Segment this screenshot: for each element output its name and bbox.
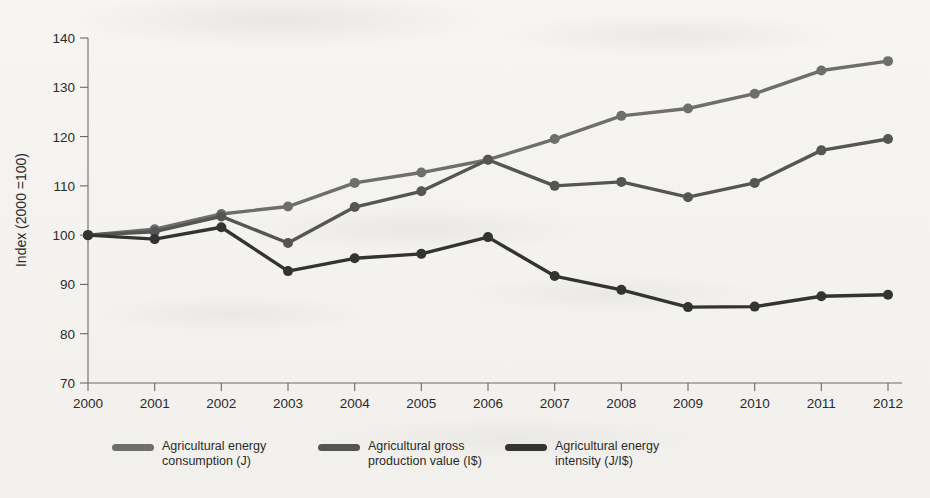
x-tick-label: 2004 xyxy=(340,396,371,411)
data-point xyxy=(816,291,826,301)
legend-item-3[interactable]: Agricultural energyintensity (J/I$) xyxy=(505,439,660,468)
chart-legend: Agricultural energyconsumption (J)Agricu… xyxy=(112,439,660,468)
y-axis-ticks xyxy=(80,38,88,383)
series-1 xyxy=(83,56,893,240)
legend-label-line1: Agricultural energy xyxy=(555,439,660,453)
data-point xyxy=(616,177,626,187)
data-series-group xyxy=(83,56,893,312)
data-point xyxy=(150,234,160,244)
data-point xyxy=(83,230,93,240)
data-point xyxy=(683,302,693,312)
x-tick-label: 2011 xyxy=(807,396,836,411)
data-point xyxy=(483,232,493,242)
line-chart: 708090100110120130140 200020012002200320… xyxy=(0,0,930,498)
data-point xyxy=(616,111,626,121)
y-axis-tick-labels: 708090100110120130140 xyxy=(52,31,75,391)
data-point xyxy=(883,134,893,144)
data-point xyxy=(750,302,760,312)
x-tick-label: 2008 xyxy=(606,396,636,411)
legend-label-line1: Agricultural energy xyxy=(162,439,267,453)
data-point xyxy=(550,134,560,144)
y-tick-label: 90 xyxy=(60,277,75,292)
data-point xyxy=(683,192,693,202)
y-tick-label: 130 xyxy=(52,80,75,95)
data-point xyxy=(350,178,360,188)
x-axis-ticks xyxy=(88,383,888,391)
data-point xyxy=(216,222,226,232)
x-tick-label: 2001 xyxy=(140,396,170,411)
x-tick-label: 2012 xyxy=(873,396,903,411)
data-point xyxy=(416,186,426,196)
series-line xyxy=(88,139,888,243)
x-tick-label: 2010 xyxy=(740,396,770,411)
legend-swatch xyxy=(112,444,154,451)
data-point xyxy=(750,178,760,188)
legend-swatch xyxy=(505,444,547,451)
data-point xyxy=(483,155,493,165)
data-point xyxy=(616,285,626,295)
legend-item-1[interactable]: Agricultural energyconsumption (J) xyxy=(112,439,267,468)
legend-label-line2: consumption (J) xyxy=(162,454,251,468)
x-axis-tick-labels: 2000200120022003200420052006200720082009… xyxy=(73,396,903,411)
x-tick-label: 2006 xyxy=(473,396,503,411)
data-point xyxy=(816,145,826,155)
y-tick-label: 140 xyxy=(52,31,75,46)
data-point xyxy=(283,202,293,212)
x-tick-label: 2007 xyxy=(540,396,570,411)
legend-label-line1: Agricultural gross xyxy=(368,439,465,453)
chart-svg: 708090100110120130140 200020012002200320… xyxy=(0,0,930,498)
legend-label-line2: intensity (J/I$) xyxy=(555,454,633,468)
data-point xyxy=(883,290,893,300)
data-point xyxy=(416,168,426,178)
data-point xyxy=(283,238,293,248)
x-tick-label: 2003 xyxy=(273,396,303,411)
x-tick-label: 2002 xyxy=(206,396,236,411)
y-tick-label: 70 xyxy=(60,376,75,391)
x-tick-label: 2000 xyxy=(73,396,103,411)
data-point xyxy=(683,103,693,113)
legend-item-2[interactable]: Agricultural grossproduction value (I$) xyxy=(318,439,482,468)
data-point xyxy=(283,266,293,276)
legend-swatch xyxy=(318,444,360,451)
data-point xyxy=(350,253,360,263)
data-point xyxy=(883,56,893,66)
x-tick-label: 2009 xyxy=(673,396,703,411)
data-point xyxy=(750,89,760,99)
data-point xyxy=(550,181,560,191)
data-point xyxy=(216,211,226,221)
series-line xyxy=(88,61,888,235)
legend-label-line2: production value (I$) xyxy=(368,454,482,468)
data-point xyxy=(550,271,560,281)
y-tick-label: 80 xyxy=(60,327,75,342)
data-point xyxy=(416,249,426,259)
y-tick-label: 110 xyxy=(53,179,75,194)
y-axis-title: Index (2000 =100) xyxy=(13,153,29,267)
data-point xyxy=(350,202,360,212)
x-tick-label: 2005 xyxy=(406,396,436,411)
y-tick-label: 120 xyxy=(52,130,75,145)
series-3 xyxy=(83,222,893,312)
data-point xyxy=(816,66,826,76)
y-tick-label: 100 xyxy=(52,228,75,243)
